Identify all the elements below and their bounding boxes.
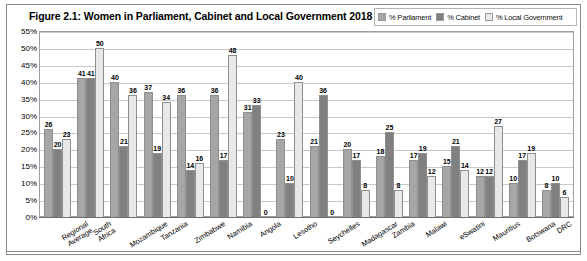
bar-wrapper[interactable]: 31 <box>243 31 252 217</box>
bar-wrapper[interactable]: 8 <box>542 31 551 217</box>
bar[interactable] <box>442 166 451 217</box>
bar-wrapper[interactable]: 36 <box>210 31 219 217</box>
bar-value-label: 12 <box>428 168 436 175</box>
bar[interactable] <box>343 149 352 217</box>
bar-wrapper[interactable]: 23 <box>62 31 71 217</box>
bar[interactable] <box>294 82 303 217</box>
bar[interactable] <box>476 176 485 217</box>
bar[interactable] <box>177 95 186 217</box>
bar-wrapper[interactable]: 41 <box>77 31 86 217</box>
bar-wrapper[interactable]: 12 <box>427 31 436 217</box>
bar-wrapper[interactable]: 10 <box>551 31 560 217</box>
bar-wrapper[interactable]: 17 <box>409 31 418 217</box>
bar[interactable] <box>385 132 394 217</box>
bar[interactable] <box>144 92 153 217</box>
bar-wrapper[interactable]: 6 <box>560 31 569 217</box>
bar[interactable] <box>119 146 128 217</box>
bar[interactable] <box>243 112 252 217</box>
bar-wrapper[interactable]: 41 <box>86 31 95 217</box>
bar-wrapper[interactable]: 14 <box>460 31 469 217</box>
bar-wrapper[interactable]: 20 <box>343 31 352 217</box>
bar[interactable] <box>153 153 162 217</box>
bar-wrapper[interactable]: 36 <box>128 31 137 217</box>
bar[interactable] <box>560 197 569 217</box>
bar[interactable] <box>394 190 403 217</box>
bar-wrapper[interactable]: 33 <box>252 31 261 217</box>
bar[interactable] <box>310 146 319 217</box>
bar-wrapper[interactable]: 0 <box>261 31 270 217</box>
bar-wrapper[interactable]: 12 <box>476 31 485 217</box>
bar[interactable] <box>252 105 261 217</box>
bar[interactable] <box>128 95 137 217</box>
bar-wrapper[interactable]: 21 <box>119 31 128 217</box>
bar[interactable] <box>86 78 95 217</box>
bar[interactable] <box>62 139 71 217</box>
bar[interactable] <box>451 146 460 217</box>
bar-wrapper[interactable]: 16 <box>195 31 204 217</box>
bar[interactable] <box>210 95 219 217</box>
bar[interactable] <box>494 126 503 217</box>
bar[interactable] <box>427 176 436 217</box>
bar-wrapper[interactable]: 8 <box>361 31 370 217</box>
bar[interactable] <box>276 139 285 217</box>
bar[interactable] <box>551 183 560 217</box>
bar-wrapper[interactable]: 10 <box>285 31 294 217</box>
bar-wrapper[interactable]: 25 <box>385 31 394 217</box>
bar-wrapper[interactable]: 50 <box>95 31 104 217</box>
bar[interactable] <box>53 149 62 217</box>
bar-wrapper[interactable]: 26 <box>44 31 53 217</box>
bar[interactable] <box>110 82 119 217</box>
bar-value-label: 41 <box>87 70 95 77</box>
bar[interactable] <box>518 160 527 217</box>
bar-wrapper[interactable]: 19 <box>527 31 536 217</box>
bar-wrapper[interactable]: 18 <box>376 31 385 217</box>
x-axis-label-slot: Malawi <box>406 219 439 255</box>
bar-value-label: 31 <box>244 104 252 111</box>
bar-wrapper[interactable]: 15 <box>442 31 451 217</box>
bar[interactable] <box>186 170 195 217</box>
bar[interactable] <box>219 160 228 217</box>
bar-wrapper[interactable]: 34 <box>162 31 171 217</box>
bar[interactable] <box>228 55 237 217</box>
bar-wrapper[interactable]: 37 <box>144 31 153 217</box>
bar[interactable] <box>285 183 294 217</box>
bar-wrapper[interactable]: 14 <box>186 31 195 217</box>
bar[interactable] <box>527 153 536 217</box>
bar-wrapper[interactable]: 17 <box>352 31 361 217</box>
bar[interactable] <box>162 102 171 217</box>
bar-wrapper[interactable]: 21 <box>310 31 319 217</box>
bar[interactable] <box>361 190 370 217</box>
bar[interactable] <box>195 163 204 217</box>
bar-wrapper[interactable]: 27 <box>494 31 503 217</box>
bar-wrapper[interactable]: 23 <box>276 31 285 217</box>
bar[interactable] <box>509 183 518 217</box>
bar-wrapper[interactable]: 48 <box>228 31 237 217</box>
bar-wrapper[interactable]: 40 <box>110 31 119 217</box>
bar[interactable] <box>352 160 361 217</box>
bar-wrapper[interactable]: 0 <box>328 31 337 217</box>
bar-wrapper[interactable]: 8 <box>394 31 403 217</box>
bar-wrapper[interactable]: 19 <box>153 31 162 217</box>
bar[interactable] <box>319 95 328 217</box>
bar-wrapper[interactable]: 21 <box>451 31 460 217</box>
x-axis-line <box>39 217 574 218</box>
bar-wrapper[interactable]: 36 <box>319 31 328 217</box>
bar[interactable] <box>418 153 427 217</box>
bar-wrapper[interactable]: 12 <box>485 31 494 217</box>
bar-wrapper[interactable]: 10 <box>509 31 518 217</box>
bar[interactable] <box>77 78 86 217</box>
bar-wrapper[interactable]: 20 <box>53 31 62 217</box>
bar[interactable] <box>44 129 53 217</box>
bar[interactable] <box>376 156 385 217</box>
bar[interactable] <box>485 176 494 217</box>
bar-wrapper[interactable]: 36 <box>177 31 186 217</box>
bar-wrapper[interactable]: 19 <box>418 31 427 217</box>
bar[interactable] <box>542 190 551 217</box>
bar[interactable] <box>409 160 418 217</box>
bar-wrapper[interactable]: 40 <box>294 31 303 217</box>
bar-value-label: 0 <box>264 209 268 216</box>
bar-wrapper[interactable]: 17 <box>219 31 228 217</box>
bar[interactable] <box>460 170 469 217</box>
bar[interactable] <box>95 48 104 217</box>
bar-wrapper[interactable]: 17 <box>518 31 527 217</box>
